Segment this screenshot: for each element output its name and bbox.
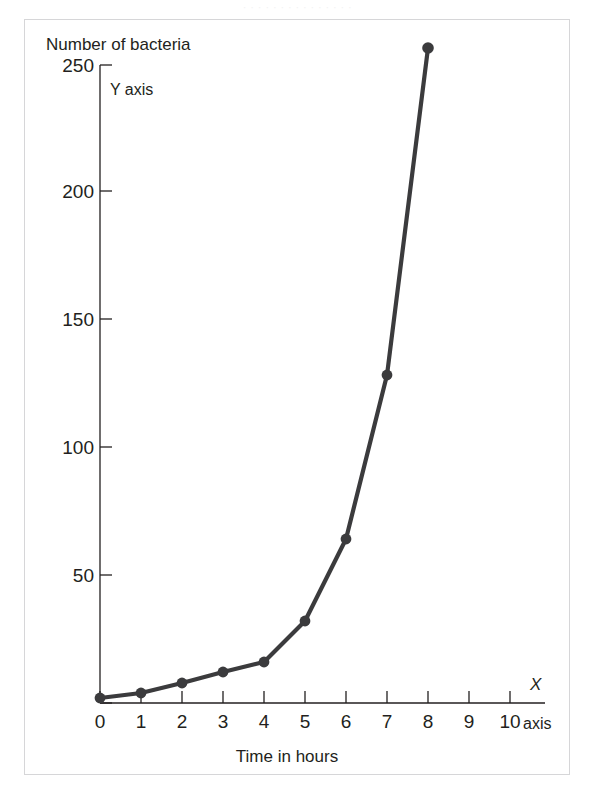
x-axis-symbol-label: X [529,675,542,694]
data-point-h3 [218,667,229,678]
x-tick-label-8: 8 [423,711,434,732]
x-axis-caption: Time in hours [236,747,338,766]
x-tick-label-4: 4 [259,711,270,732]
x-tick-label-6: 6 [341,711,352,732]
x-tick-label-7: 7 [382,711,393,732]
x-tick-label-9: 9 [464,711,475,732]
y-tick-label-200: 200 [62,181,94,202]
bacteria-growth-chart: 250 200 150 100 50 0 1 2 3 4 5 [25,20,571,776]
y-tick-marks [100,65,112,703]
x-tick-labels: 0 1 2 3 4 5 6 7 8 9 10 [95,711,521,732]
data-point-h4 [259,657,270,668]
x-tick-label-3: 3 [218,711,229,732]
x-tick-label-5: 5 [300,711,311,732]
data-point-h7 [382,370,393,381]
data-points [95,42,434,703]
y-tick-label-100: 100 [62,437,94,458]
x-tick-label-0: 0 [95,711,106,732]
x-tick-label-1: 1 [136,711,147,732]
y-axis-title: Number of bacteria [46,35,191,54]
data-point-h0 [95,693,106,704]
figure-frame: 250 200 150 100 50 0 1 2 3 4 5 [24,19,570,775]
data-point-h2 [177,678,188,689]
y-tick-label-50: 50 [73,565,94,586]
data-point-h8 [422,42,434,54]
data-point-h1 [136,688,147,699]
x-axis-name-label: axis [523,715,551,732]
y-tick-labels: 250 200 150 100 50 [62,55,94,586]
x-tick-label-10: 10 [499,711,520,732]
data-point-h6 [341,534,352,545]
y-tick-label-150: 150 [62,309,94,330]
data-line-bacteria [100,48,428,698]
y-axis-name-label: Y axis [110,81,153,98]
x-tick-label-2: 2 [177,711,188,732]
y-tick-label-250: 250 [62,55,94,76]
data-point-h5 [300,616,311,627]
x-tick-marks [100,691,510,703]
page-top-bleed-text: · · · · · · · · · · · · · · · [0,0,595,14]
